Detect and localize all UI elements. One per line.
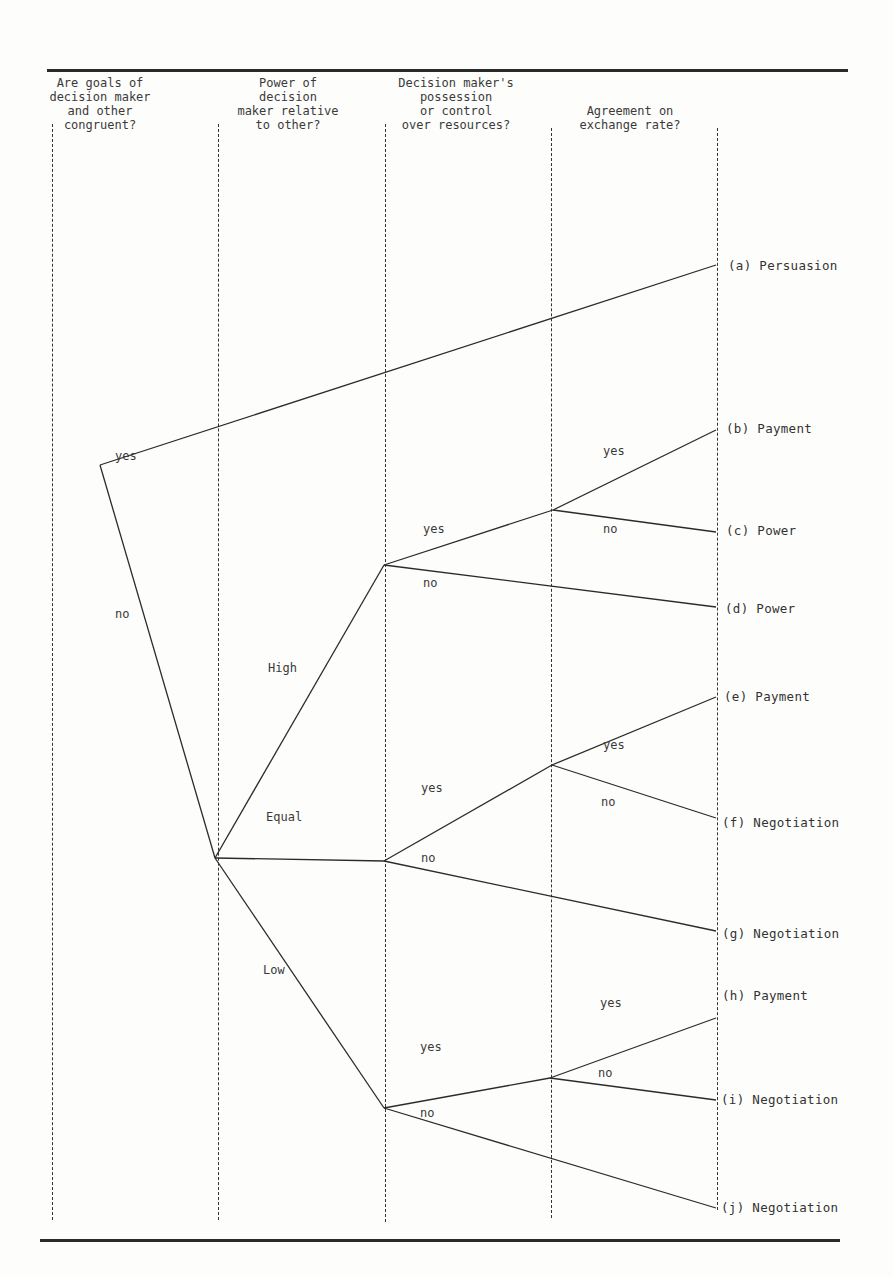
label-equal-no: no: [421, 851, 435, 865]
edge-high-exch-no: [553, 510, 716, 532]
outcome-a: (a) Persuasion: [728, 258, 838, 273]
label-low-no: no: [420, 1106, 434, 1120]
edge-equal-exch-no: [552, 765, 716, 818]
outcome-b: (b) Payment: [726, 421, 812, 436]
edge-equal-no: [384, 861, 716, 931]
edge-low-exch-no: [550, 1078, 716, 1100]
decision-tree-edges: [0, 0, 893, 1277]
label-high-exch-no: no: [603, 522, 617, 536]
outcome-i: (i) Negotiation: [721, 1092, 838, 1107]
edge-equal-yes: [384, 765, 552, 861]
outcome-j: (j) Negotiation: [721, 1200, 838, 1215]
label-equal-exch-yes: yes: [603, 738, 625, 752]
label-low-yes: yes: [420, 1040, 442, 1054]
label-low: Low: [263, 963, 285, 977]
outcome-d: (d) Power: [725, 601, 795, 616]
outcome-e: (e) Payment: [724, 689, 810, 704]
edge-equal: [215, 858, 384, 861]
outcome-c: (c) Power: [726, 523, 796, 538]
label-high-yes: yes: [423, 522, 445, 536]
label-equal-yes: yes: [421, 781, 443, 795]
outcome-g: (g) Negotiation: [722, 926, 839, 941]
edge-low-exch-yes: [550, 1018, 716, 1078]
outcome-h: (h) Payment: [722, 988, 808, 1003]
label-low-exch-yes: yes: [600, 996, 622, 1010]
label-root-no: no: [115, 607, 129, 621]
outcome-f: (f) Negotiation: [722, 815, 839, 830]
label-high-no: no: [423, 576, 437, 590]
label-high: High: [268, 661, 297, 675]
edge-equal-exch-yes: [552, 697, 716, 765]
edge-high-yes: [384, 510, 553, 565]
edge-low: [215, 858, 384, 1108]
edge-root-yes: [100, 265, 716, 465]
label-equal-exch-no: no: [601, 795, 615, 809]
edge-high-exch-yes: [553, 430, 716, 510]
label-equal: Equal: [266, 810, 302, 824]
edge-low-no: [384, 1108, 716, 1208]
label-root-yes: yes: [115, 449, 137, 463]
label-low-exch-no: no: [598, 1066, 612, 1080]
edge-root-no: [100, 465, 215, 858]
label-high-exch-yes: yes: [603, 444, 625, 458]
edge-low-yes: [384, 1078, 550, 1108]
